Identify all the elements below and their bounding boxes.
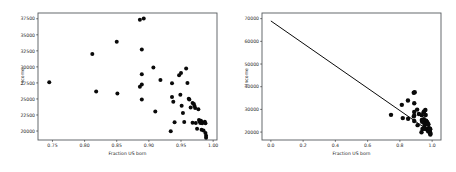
- y-axis-label: Income: [244, 68, 249, 85]
- x-tick-label: 0.4: [332, 143, 339, 148]
- data-point: [423, 108, 427, 112]
- data-point: [179, 71, 183, 75]
- x-tick-label: 0.95: [176, 143, 186, 148]
- data-point: [413, 90, 417, 94]
- data-point: [170, 81, 174, 85]
- data-point: [151, 66, 155, 70]
- data-point: [401, 116, 405, 120]
- x-tick-label: 1.0: [428, 143, 435, 148]
- scatter-plot-left: 2000022500250002750030000325003500037500…: [0, 0, 228, 172]
- data-point: [412, 114, 416, 118]
- data-point: [184, 66, 188, 70]
- scatter-plot-right: 2000030000400005000060000700000.00.20.40…: [228, 0, 456, 172]
- data-point: [412, 101, 416, 105]
- data-point: [426, 122, 430, 126]
- data-point: [194, 121, 198, 125]
- y-tick-label: 22500: [20, 113, 35, 118]
- data-point: [90, 52, 94, 56]
- y-tick-label: 35000: [20, 33, 35, 38]
- y-tick-label: 25000: [20, 97, 35, 102]
- data-point: [204, 136, 208, 140]
- x-tick-label: 0.8: [396, 143, 403, 148]
- data-point: [189, 106, 193, 110]
- data-point: [153, 109, 157, 113]
- data-point: [203, 121, 207, 125]
- data-point: [170, 95, 174, 99]
- data-point: [423, 113, 427, 117]
- data-point: [115, 40, 119, 44]
- x-tick-label: 0.75: [47, 143, 57, 148]
- data-point: [428, 132, 432, 136]
- data-point: [389, 113, 393, 117]
- data-point: [400, 103, 404, 107]
- figure-scatter-income-vs-fraction-us-born: 2000022500250002750030000325003500037500…: [0, 0, 456, 172]
- y-tick-label: 30000: [244, 107, 259, 112]
- y-tick-label: 20000: [244, 130, 259, 135]
- data-point: [415, 123, 419, 127]
- y-axis-label: Income: [20, 68, 25, 85]
- y-tick-label: 37500: [20, 16, 35, 21]
- y-tick-label: 50000: [244, 62, 259, 67]
- x-tick-label: 1.00: [208, 143, 218, 148]
- x-axis-label: Fraction US born: [333, 151, 371, 156]
- data-point: [406, 117, 410, 121]
- regression-fit-line: [271, 21, 432, 133]
- x-tick-label: 0.2: [299, 143, 306, 148]
- chart-panel-left: 2000022500250002750030000325003500037500…: [0, 0, 228, 172]
- data-point: [140, 98, 144, 102]
- x-tick-label: 0.6: [364, 143, 371, 148]
- data-point: [47, 80, 51, 84]
- data-point: [412, 119, 416, 123]
- data-point: [158, 78, 162, 82]
- data-point: [185, 81, 189, 85]
- y-tick-label: 60000: [244, 39, 259, 44]
- data-point: [406, 98, 410, 102]
- data-point: [187, 98, 191, 102]
- y-tick-label: 32500: [20, 49, 35, 54]
- data-point: [140, 48, 144, 52]
- data-point: [178, 93, 182, 97]
- x-tick-label: 0.85: [112, 143, 122, 148]
- data-point: [173, 120, 177, 124]
- data-point: [196, 107, 200, 111]
- chart-panel-right: 2000030000400005000060000700000.00.20.40…: [228, 0, 456, 172]
- data-point: [182, 120, 186, 124]
- y-tick-label: 20000: [20, 129, 35, 134]
- x-tick-label: 0.0: [267, 143, 274, 148]
- data-point: [171, 100, 175, 104]
- data-point: [415, 107, 419, 111]
- data-point: [195, 127, 199, 131]
- data-point: [94, 90, 98, 94]
- x-tick-label: 0.80: [79, 143, 89, 148]
- data-point: [138, 18, 142, 22]
- data-point: [115, 91, 119, 95]
- data-point: [180, 104, 184, 108]
- data-point: [169, 129, 173, 133]
- data-point: [142, 16, 146, 20]
- y-tick-label: 70000: [244, 16, 259, 21]
- data-point: [140, 72, 144, 76]
- data-point: [138, 85, 142, 89]
- data-point: [181, 111, 185, 115]
- x-axis-label: Fraction US born: [109, 151, 147, 156]
- x-tick-label: 0.90: [144, 143, 154, 148]
- plot-frame: [38, 13, 217, 140]
